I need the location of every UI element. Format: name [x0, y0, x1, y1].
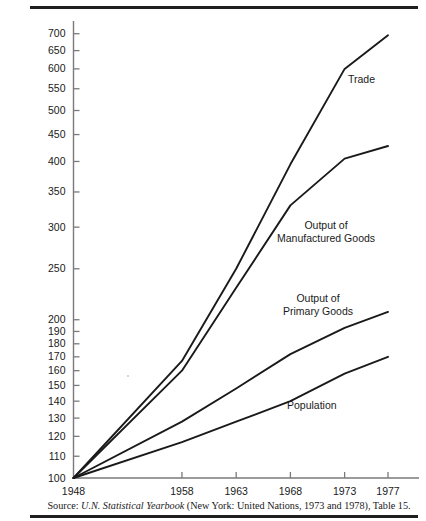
x-tick-label: 1977 — [366, 486, 410, 497]
source-note-prefix: Source: — [47, 500, 81, 511]
series-line-population — [74, 357, 389, 478]
source-note: Source: U.N. Statistical Yearbook (New Y… — [33, 500, 425, 512]
y-tick-label: 130 — [32, 413, 66, 424]
y-tick-label: 190 — [32, 326, 66, 337]
figure-container: 1001101201301401501601701801902002503003… — [0, 0, 426, 521]
y-tick-label: 200 — [32, 314, 66, 325]
x-tick-label: 1973 — [323, 486, 367, 497]
series-line-trade — [74, 35, 389, 478]
paper-speck — [127, 375, 129, 377]
y-tick-label: 110 — [32, 451, 66, 462]
bottom-rule — [30, 515, 418, 518]
series-label-primary-goods-line1: Output of — [283, 292, 353, 305]
y-tick-label: 180 — [32, 338, 66, 349]
x-tick-label: 1958 — [160, 486, 204, 497]
series-label-manufactured-goods: Output of Manufactured Goods — [277, 219, 375, 244]
x-tick-label: 1968 — [268, 486, 312, 497]
y-tick-label: 400 — [32, 156, 66, 167]
y-tick-label: 700 — [32, 28, 66, 39]
y-tick-label: 140 — [32, 396, 66, 407]
y-tick-label: 650 — [32, 45, 66, 56]
y-tick-label: 600 — [32, 63, 66, 74]
y-tick-label: 170 — [32, 351, 66, 362]
series-label-primary-goods: Output of Primary Goods — [283, 292, 353, 317]
series-label-population: Population — [287, 399, 337, 412]
x-tick-label: 1963 — [214, 486, 258, 497]
y-tick-label: 250 — [32, 263, 66, 274]
series-label-primary-goods-line2: Primary Goods — [283, 305, 353, 318]
y-tick-label: 450 — [32, 129, 66, 140]
y-tick-label: 120 — [32, 431, 66, 442]
series-line-output-of-primary-goods — [74, 312, 389, 478]
x-tick-label: 1948 — [52, 486, 96, 497]
y-tick-label: 160 — [32, 365, 66, 376]
y-tick-label: 500 — [32, 105, 66, 116]
y-tick-label: 100 — [32, 473, 66, 484]
series-label-manufactured-goods-line2: Manufactured Goods — [277, 232, 375, 245]
source-note-title: U.N. Statistical Yearbook — [81, 500, 184, 511]
y-tick-label: 550 — [32, 83, 66, 94]
series-label-manufactured-goods-line1: Output of — [277, 219, 375, 232]
y-tick-label: 300 — [32, 222, 66, 233]
series-label-trade: Trade — [348, 73, 375, 86]
plot-area: 1001101201301401501601701801902002503003… — [0, 0, 426, 500]
y-tick-label: 150 — [32, 380, 66, 391]
source-note-rest: (New York: United Nations, 1973 and 1978… — [184, 500, 410, 511]
y-tick-label: 350 — [32, 186, 66, 197]
